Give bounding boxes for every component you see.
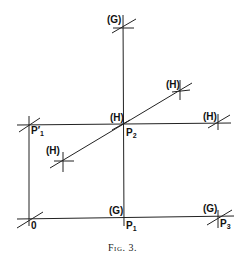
label-h-diag-upper: (H) [166,80,180,90]
label-h-right: (H) [203,112,217,122]
label-p1: P1 [126,221,137,232]
label-origin: 0 [31,221,37,231]
label-p2: P2 [126,128,137,139]
figure: (G) (H) (H) (H) (H) (G) (G) P′1 P2 0 P1 … [0,0,247,260]
label-g-top: (G) [107,15,121,25]
label-h-diag-lower: (H) [46,146,60,156]
label-h-center: (H) [110,113,124,123]
label-p3: P3 [220,219,231,230]
label-g-bottom-center: (G) [109,206,123,216]
label-p1-prime: P′1 [31,126,44,137]
horizontal-line-0-p3 [17,216,234,219]
label-g-bottom-right: (G) [203,204,217,214]
figure-caption: Fig. 3. [108,242,137,253]
